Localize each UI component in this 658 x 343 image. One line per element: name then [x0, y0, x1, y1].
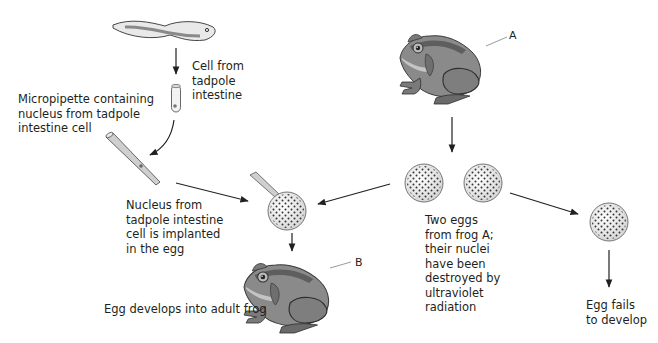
frog-b-illustration	[244, 264, 329, 333]
nuclear-transplant-diagram: Cell from tadpole intestine Micropipette…	[0, 0, 658, 343]
label-two-eggs: Two eggs from frog A; their nuclei have …	[425, 213, 500, 315]
enucleated-egg-2	[464, 164, 502, 202]
arrow-egg1-to-implanted	[318, 184, 390, 204]
frog-a-illustration	[400, 35, 481, 104]
label-frog-a: A	[509, 29, 517, 44]
label-egg-fails: Egg fails to develop	[586, 298, 647, 327]
intestine-cell-tube	[172, 84, 181, 112]
frog-a-pointer	[486, 37, 507, 46]
enucleated-egg-1	[405, 164, 443, 202]
label-egg-develops: Egg develops into adult frog	[104, 302, 267, 317]
label-frog-b: B	[355, 256, 363, 271]
label-cell-from-tadpole: Cell from tadpole intestine	[192, 59, 244, 103]
label-nucleus-implanted: Nucleus from tadpole intestine cell is i…	[126, 198, 223, 256]
implanted-egg	[250, 172, 306, 230]
arrow-egg2-to-failed	[510, 193, 578, 214]
frog-b-pointer	[330, 262, 351, 268]
micropipette-illustration	[105, 131, 160, 185]
label-micropipette: Micropipette containing nucleus from tad…	[18, 92, 154, 136]
failed-egg	[590, 203, 628, 241]
tadpole-illustration	[113, 21, 215, 40]
